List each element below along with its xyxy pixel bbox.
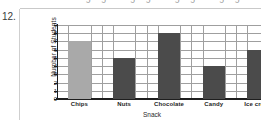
x-axis-tick-labels: ChipsNutsChocolateCandyIce cream (57, 101, 261, 111)
x-tick-label-chips: Chips (57, 101, 102, 107)
problem-number: 12. (2, 11, 16, 22)
figure-page: ɔɔ ɔɔ ɔɔ ɔɔ 12. Number of Students 01234… (0, 0, 261, 120)
artifact-glyph-row: ɔɔ ɔɔ ɔɔ ɔɔ (86, 0, 251, 5)
bar-chips (68, 41, 90, 99)
y-axis-title-wrap: Number of Students (29, 27, 41, 91)
bar-ice-cream (247, 50, 261, 99)
bar-candy (203, 66, 225, 99)
bar-series (57, 25, 261, 99)
bar-nuts (113, 58, 135, 99)
chart-frame: Number of Students 0123456789 ChipsNutsC… (19, 9, 261, 120)
x-tick-label-ice-cream: Ice cream (236, 101, 261, 107)
bar-chocolate (158, 33, 180, 99)
x-tick-label-chocolate: Chocolate (147, 101, 192, 107)
x-axis-title: Snack (57, 111, 247, 118)
x-tick-label-candy: Candy (191, 101, 236, 107)
x-tick-label-nuts: Nuts (102, 101, 147, 107)
